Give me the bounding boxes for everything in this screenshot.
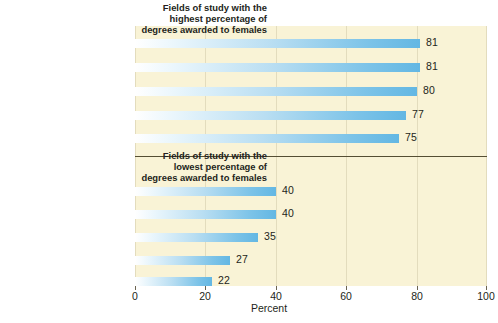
bar-value: 22	[218, 274, 230, 286]
x-tick-label: 60	[340, 290, 352, 302]
bar-value: 81	[426, 60, 438, 72]
plot-area: Fields of study with the highest percent…	[135, 26, 487, 286]
bar	[135, 63, 420, 72]
bar	[135, 277, 212, 286]
bar	[135, 256, 230, 265]
x-tick-label: 80	[411, 290, 423, 302]
bar	[135, 210, 276, 219]
bar	[135, 134, 399, 143]
x-tick-label: 40	[270, 290, 282, 302]
bar-value: 81	[426, 36, 438, 48]
bar-value: 27	[236, 253, 248, 265]
bar	[135, 111, 406, 120]
x-tick-label: 20	[199, 290, 211, 302]
bar-chart: Fields of study with the highest percent…	[0, 0, 498, 323]
bar	[135, 187, 276, 196]
x-axis-title-text: Percent	[251, 302, 287, 314]
group-title-lowest: Fields of study with the lowest percenta…	[67, 150, 267, 184]
bar-value: 40	[282, 207, 294, 219]
bar	[135, 87, 417, 96]
group-title-highest: Fields of study with the highest percent…	[67, 2, 267, 36]
bar-value: 35	[264, 230, 276, 242]
bar	[135, 233, 258, 242]
x-tick-label: 0	[132, 290, 138, 302]
x-tick-label: 100	[477, 290, 495, 302]
x-axis-title: Percent	[0, 302, 498, 314]
bar-value: 75	[405, 131, 417, 143]
bar-value: 40	[282, 184, 294, 196]
bar	[135, 39, 420, 48]
bar-value: 80	[423, 84, 435, 96]
bar-value: 77	[412, 108, 424, 120]
